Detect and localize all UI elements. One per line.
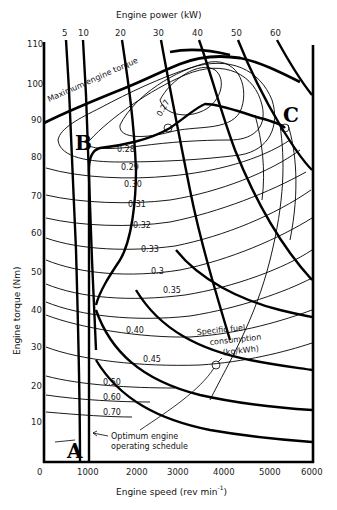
contour-label-029: 0.29 <box>121 163 139 172</box>
x-tick-3000: 3000 <box>167 467 189 477</box>
y-tick-30: 30 <box>31 342 42 352</box>
sfc-annotation: Specific fuel consumption (kg/kWh) <box>196 323 261 362</box>
point-b-label: B <box>75 131 92 155</box>
y-tick-90: 90 <box>31 115 42 125</box>
sfc-annotation-line3: (kg/kWh) <box>222 344 259 357</box>
point-c-label: C <box>283 103 299 127</box>
y-tick-60: 60 <box>31 228 42 238</box>
power-tick-60: 60 <box>270 28 281 38</box>
contour-label-040: 0.40 <box>126 326 144 335</box>
x-axis-title: Engine speed (rev min-1) <box>116 484 227 497</box>
contour-label-03: 0.3 <box>151 267 164 276</box>
y-axis-title: Engine torque (Nm) <box>12 266 22 355</box>
y-tick-10: 10 <box>31 417 42 427</box>
x-tick-5000: 5000 <box>259 467 281 477</box>
point-a-label: A <box>66 439 83 463</box>
y-tick-100: 100 <box>27 79 43 89</box>
power-tick-10: 10 <box>78 28 89 38</box>
sfc-marker <box>212 361 220 369</box>
contour-label-060: 0.60 <box>103 393 121 402</box>
contour-label-035: 0.35 <box>163 286 181 295</box>
power-tick-labels: 5 10 20 30 40 50 60 <box>62 28 281 38</box>
power-tick-50: 50 <box>231 28 242 38</box>
contour-label-030: 0.30 <box>124 180 142 189</box>
y-tick-110: 110 <box>27 39 43 49</box>
contour-label-028: 0.28 <box>117 145 135 154</box>
y-tick-20: 20 <box>31 381 42 391</box>
y-tick-40: 40 <box>31 305 42 315</box>
x-tick-2000: 2000 <box>126 467 148 477</box>
max-torque-annotation: Maximum engine torque <box>46 56 139 104</box>
power-tick-20: 20 <box>115 28 126 38</box>
contour-label-070: 0.70 <box>103 408 121 417</box>
contour-label-032: 0.32 <box>133 221 151 230</box>
opt-annotation-line1: Optimum engine <box>111 432 178 441</box>
contour-label-031: 0.31 <box>128 200 146 209</box>
power-tick-5: 5 <box>62 28 67 38</box>
max-torque-line-upper <box>170 50 230 55</box>
power-tick-30: 30 <box>153 28 164 38</box>
y-tick-80: 80 <box>31 152 42 162</box>
contour-label-033: 0.33 <box>141 245 159 254</box>
x-tick-1000: 1000 <box>77 467 99 477</box>
contour-label-045: 0.45 <box>143 355 161 364</box>
top-axis-title: Engine power (kW) <box>116 10 202 20</box>
contour-label-027: 0.27 <box>155 98 172 118</box>
x-tick-6000: 6000 <box>301 467 323 477</box>
contour-label-050: 0.50 <box>103 378 121 387</box>
x-tick-4000: 4000 <box>213 467 235 477</box>
opt-annotation-line2: operating schedule <box>111 442 188 451</box>
y-tick-labels: 110 100 90 80 70 60 50 40 30 20 10 <box>27 39 43 427</box>
y-tick-50: 50 <box>31 267 42 277</box>
engine-map-chart: Engine power (kW) 5 10 20 30 40 50 60 11… <box>0 0 337 510</box>
y-tick-70: 70 <box>31 191 42 201</box>
power-tick-40: 40 <box>192 28 203 38</box>
x-tick-0: 0 <box>37 467 42 477</box>
x-tick-labels: 0 1000 2000 3000 4000 5000 6000 <box>37 467 323 477</box>
